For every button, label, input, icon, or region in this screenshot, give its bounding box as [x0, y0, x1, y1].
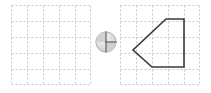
pentagon-arrow-shape[interactable]: [120, 5, 200, 85]
empty-grid-panel[interactable]: [11, 5, 91, 85]
grid-lines: [11, 5, 91, 85]
pie-circle-icon-glyph: [95, 31, 117, 53]
pie-circle-icon[interactable]: [95, 31, 117, 53]
pentagon-grid-panel[interactable]: [120, 5, 200, 85]
pentagon-arrow-outline: [133, 19, 184, 67]
figure-canvas: [0, 0, 211, 93]
